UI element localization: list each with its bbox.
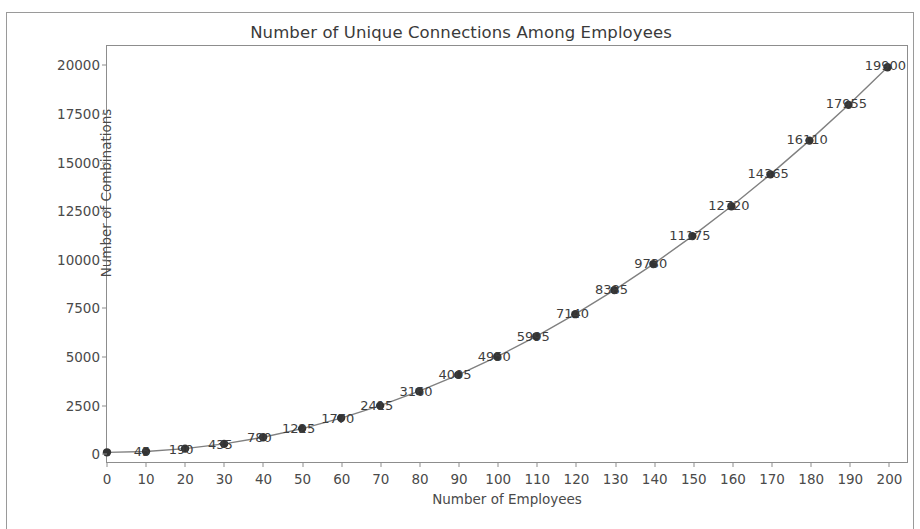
data-point-label: 8385 (595, 282, 628, 297)
data-point-label: 780 (247, 430, 272, 445)
x-tick-label: 110 (524, 471, 550, 487)
data-point-label: 14365 (747, 166, 788, 181)
data-point-label: 11175 (669, 228, 710, 243)
y-tick-mark (102, 308, 107, 309)
data-point-label: 3160 (399, 384, 432, 399)
x-tick-mark (224, 462, 225, 467)
series-line (107, 67, 887, 452)
x-tick-mark (654, 462, 655, 467)
x-tick-label: 0 (103, 471, 112, 487)
y-tick-mark (102, 65, 107, 66)
x-tick-label: 120 (564, 471, 590, 487)
x-tick-label: 40 (255, 471, 272, 487)
y-tick-label: 12500 (57, 203, 100, 219)
x-tick-label: 50 (294, 471, 311, 487)
y-tick-mark (102, 211, 107, 212)
y-tick-label: 17500 (57, 106, 100, 122)
data-point-label: 4950 (478, 349, 511, 364)
x-tick-label: 150 (681, 471, 707, 487)
chart-title: Number of Unique Connections Among Emplo… (7, 23, 915, 42)
x-axis-label: Number of Employees (106, 491, 908, 507)
x-tick-mark (811, 462, 812, 467)
x-tick-mark (419, 462, 420, 467)
x-tick-mark (498, 462, 499, 467)
x-tick-mark (341, 462, 342, 467)
y-tick-label: 10000 (57, 252, 100, 268)
data-point-label: 1225 (282, 421, 315, 436)
data-point-label: 17955 (826, 96, 867, 111)
data-point-label: 5995 (517, 329, 550, 344)
x-tick-mark (185, 462, 186, 467)
x-tick-mark (537, 462, 538, 467)
data-point-label: 16110 (787, 132, 828, 147)
y-tick-mark (102, 259, 107, 260)
x-tick-label: 70 (372, 471, 389, 487)
y-axis-label: Number of Combinations (98, 0, 114, 402)
y-tick-label: 2500 (66, 398, 100, 414)
x-tick-mark (459, 462, 460, 467)
x-tick-label: 100 (485, 471, 511, 487)
y-tick-label: 20000 (57, 57, 100, 73)
x-tick-label: 160 (720, 471, 746, 487)
chart-canvas (107, 46, 907, 462)
x-tick-label: 80 (411, 471, 428, 487)
x-tick-label: 130 (603, 471, 629, 487)
x-tick-label: 200 (877, 471, 903, 487)
x-tick-mark (380, 462, 381, 467)
x-tick-mark (732, 462, 733, 467)
x-tick-label: 30 (216, 471, 233, 487)
y-tick-label: 5000 (66, 349, 100, 365)
y-tick-mark (102, 454, 107, 455)
x-tick-mark (772, 462, 773, 467)
x-tick-mark (889, 462, 890, 467)
data-point-label: 45 (134, 444, 151, 459)
x-tick-mark (615, 462, 616, 467)
data-point-label: 190 (169, 442, 194, 457)
y-tick-mark (102, 162, 107, 163)
series-markers (103, 63, 892, 456)
x-tick-label: 190 (837, 471, 863, 487)
y-tick-label: 7500 (66, 300, 100, 316)
plot-area: Number of Combinations 02500500075001000… (106, 45, 908, 463)
x-tick-label: 170 (759, 471, 785, 487)
x-tick-label: 60 (333, 471, 350, 487)
x-tick-mark (693, 462, 694, 467)
x-tick-mark (302, 462, 303, 467)
x-tick-label: 140 (642, 471, 668, 487)
x-tick-label: 10 (138, 471, 155, 487)
data-point-label: 7140 (556, 306, 589, 321)
y-tick-mark (102, 357, 107, 358)
data-point-label: 12720 (708, 198, 749, 213)
data-point-label: 9730 (634, 256, 667, 271)
x-tick-label: 180 (798, 471, 824, 487)
x-tick-mark (850, 462, 851, 467)
x-tick-mark (107, 462, 108, 467)
x-tick-label: 90 (451, 471, 468, 487)
data-point-label: 2415 (360, 398, 393, 413)
y-tick-mark (102, 405, 107, 406)
y-tick-label: 15000 (57, 155, 100, 171)
x-tick-mark (576, 462, 577, 467)
data-point-label: 1770 (321, 411, 354, 426)
data-point-label: 4005 (439, 367, 472, 382)
data-point-marker (103, 448, 111, 456)
x-tick-mark (263, 462, 264, 467)
y-tick-mark (102, 114, 107, 115)
x-tick-mark (146, 462, 147, 467)
data-point-label: 435 (208, 437, 233, 452)
y-tick-label: 0 (91, 446, 100, 462)
figure-panel: Number of Unique Connections Among Emplo… (6, 12, 914, 529)
x-tick-label: 20 (177, 471, 194, 487)
data-point-label: 19900 (865, 58, 906, 73)
